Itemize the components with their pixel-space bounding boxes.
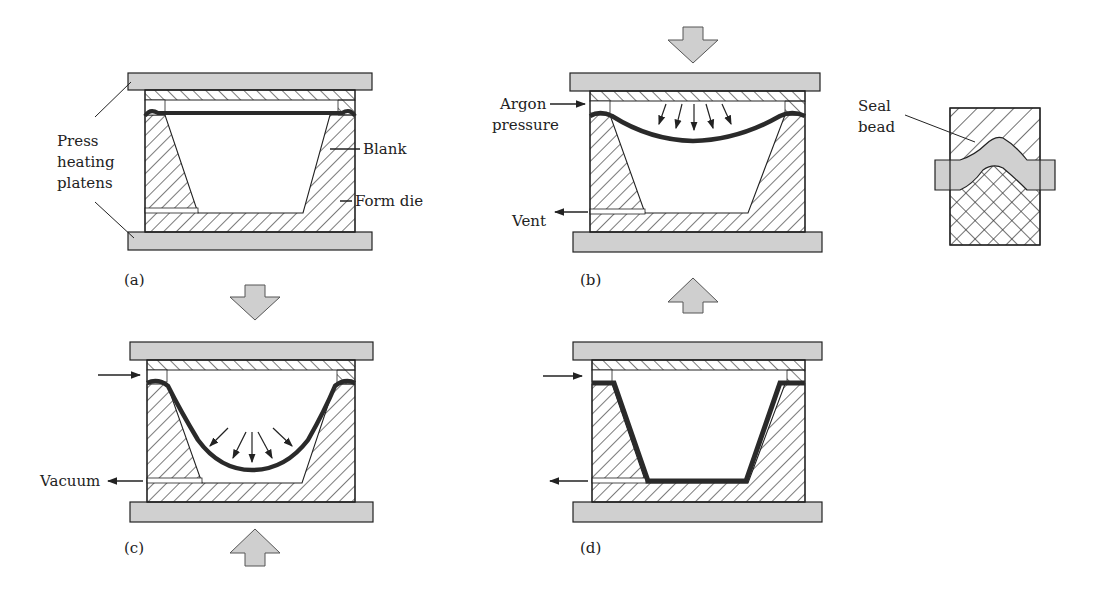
seal-bead-label-2: bead — [858, 118, 895, 136]
argon-pressure-label-2: pressure — [492, 116, 559, 134]
blank-label: Blank — [363, 140, 407, 158]
vent-label: Vent — [511, 212, 546, 230]
top-platen — [130, 342, 373, 360]
form-die — [145, 115, 355, 232]
bottom-platen — [573, 502, 822, 522]
top-platen — [570, 73, 820, 91]
top-platen — [573, 342, 822, 360]
press-arrow-up-icon — [668, 278, 718, 313]
panel-b: Argon pressure Vent (b) — [492, 27, 822, 289]
bottom-platen — [128, 232, 372, 250]
diagram-canvas: Press heating platens Blank Form die (a)… — [0, 0, 1120, 595]
blank-sheet — [590, 113, 805, 141]
gas-pressure-arrows-icon — [659, 104, 731, 130]
panel-d-label: (d) — [580, 539, 601, 557]
seal-bead-label: Seal — [858, 97, 891, 115]
top-die-lid — [145, 90, 355, 100]
panel-c: Vacuum (c) — [39, 342, 373, 566]
press-arrow-up-icon — [230, 529, 280, 566]
panel-a: Press heating platens Blank Form die (a) — [57, 73, 423, 289]
forming-diagram: Press heating platens Blank Form die (a)… — [0, 0, 1120, 595]
form-die — [590, 115, 805, 232]
press-heating-platens-label: Press — [57, 132, 99, 150]
press-arrow-down-icon — [668, 27, 718, 63]
seal-bead-detail: Seal bead — [858, 97, 1055, 245]
form-die-label: Form die — [355, 192, 423, 210]
press-heating-platens-label-3: platens — [57, 174, 113, 192]
bottom-platen — [573, 232, 822, 252]
argon-pressure-label: Argon — [499, 95, 547, 113]
blank-sheet — [145, 111, 355, 116]
bottom-platen — [130, 502, 373, 522]
panel-a-label: (a) — [124, 271, 145, 289]
vacuum-label: Vacuum — [39, 472, 100, 490]
panel-b-label: (b) — [580, 271, 601, 289]
gas-pressure-arrows-icon — [210, 428, 292, 462]
panel-c-label: (c) — [124, 539, 144, 557]
press-heating-platens-label-2: heating — [57, 153, 115, 171]
top-platen — [128, 73, 372, 90]
press-arrow-down-icon — [230, 285, 280, 320]
panel-d: (d) — [543, 342, 822, 557]
